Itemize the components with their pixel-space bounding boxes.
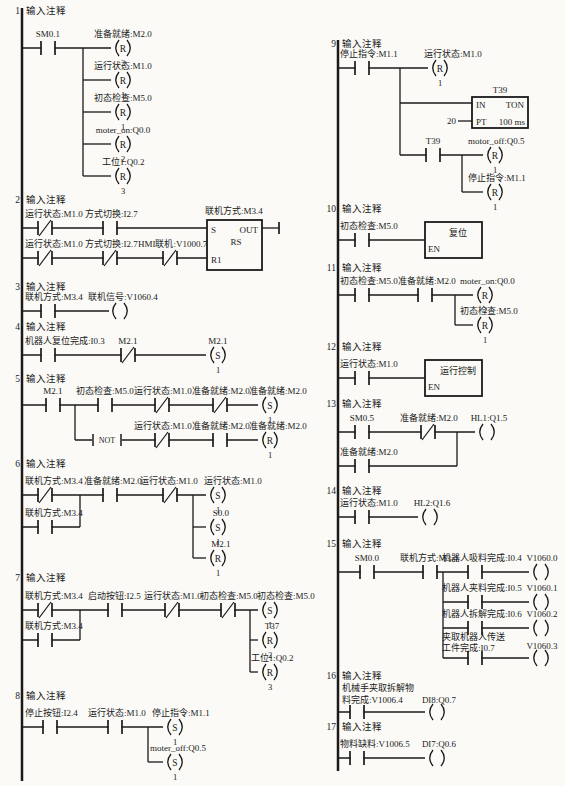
contact-label: 准备就绪:M2.0	[84, 475, 142, 486]
coil-type: R	[120, 44, 127, 54]
network-comment: 输入注释	[342, 485, 382, 496]
network-number: 11	[327, 263, 336, 273]
contact-label: 运行状态:M1.0	[134, 385, 192, 396]
coil-count: 1	[173, 772, 177, 782]
contact-label: 运行状态:M1.0	[25, 208, 83, 219]
network-number: 10	[327, 204, 337, 214]
symbol-gap	[427, 147, 440, 163]
ladder-diagram: SM0.1R2准备就绪:M2.0R1运行状态:M1.0R1初态检查:M5.0R2…	[0, 0, 565, 786]
coil-label: DI7:Q0.6	[422, 739, 457, 749]
coil: V1060.3	[526, 641, 558, 667]
coil-type: R	[267, 436, 274, 446]
symbol-gap	[469, 594, 482, 610]
network-comment: 输入注释	[342, 203, 382, 214]
no-contact: M2.1	[43, 386, 62, 413]
nc-contact: 运行状态:M1.0	[144, 590, 202, 618]
contact-label: M2.1	[118, 336, 137, 346]
coil-label: moter_on:Q0.0	[460, 276, 515, 286]
nc-contact: 运行状态:M1.0	[25, 238, 83, 266]
no-contact: T39	[426, 136, 441, 163]
no-contact: SM0.0	[355, 553, 380, 580]
contact-label: SM0.5	[350, 413, 375, 423]
coil-type: S	[215, 351, 220, 361]
coil-label: 准备就绪:M2.0	[249, 385, 307, 396]
contact-label: SM0.0	[355, 553, 380, 563]
no-contact: 停止按钮:I2.4	[25, 707, 78, 735]
coil-label: 停止指令:M1.1	[468, 172, 526, 183]
coil: R1运行状态:M1.0	[424, 48, 482, 88]
coil-label: 准备就绪:M2.0	[249, 420, 307, 431]
network-comment: 输入注释	[26, 690, 66, 701]
contact-label: 方式切换:I2.7	[85, 238, 138, 249]
network-13: SM0.5准备就绪:M2.0准备就绪:M2.0HL1:Q1.513输入注释	[327, 398, 508, 474]
symbol-gap	[214, 432, 227, 448]
symbol-gap	[351, 750, 364, 766]
no-contact: 初态检查:M5.0	[76, 385, 134, 413]
network-3: 联机方式:M3.4联机信号:V1060.43输入注释	[15, 281, 158, 320]
symbol-gap	[351, 704, 364, 720]
no-contact: 物料缺料:V1006.5	[340, 738, 410, 766]
coil-type: S	[215, 491, 220, 501]
symbol-gap	[356, 370, 369, 386]
contact-label: 停止按钮:I2.4	[25, 707, 78, 718]
network-number: 8	[15, 691, 20, 701]
no-contact: 运行状态:M1.0	[88, 707, 146, 735]
coil-count: 1	[438, 78, 442, 88]
symbol-gap	[356, 458, 369, 474]
network-number: 13	[327, 399, 337, 409]
symbol-gap	[104, 220, 117, 236]
coil: S1M2.1	[207, 336, 229, 375]
network-4: 机器人复位完成:I0.3M2.1S1M2.14输入注释	[15, 321, 229, 375]
network-16: DI8:Q0.7机械手夹取拆解物料完成:V1006.416输入注释	[327, 670, 457, 721]
network-number: 14	[327, 486, 337, 496]
coil-type: R	[492, 151, 499, 161]
coil: 联机信号:V1060.4	[88, 291, 158, 320]
function-block: 联机方式:M3.4SOUTRSR1	[205, 205, 263, 270]
contact-label: 初态检查:M5.0	[340, 220, 398, 231]
contact-label: 运行状态:M1.0	[140, 475, 198, 486]
network-number: 6	[15, 459, 20, 469]
no-contact: 联机方式:M3.4	[25, 507, 83, 535]
coil-type: R	[120, 76, 127, 86]
network-number: 3	[15, 282, 20, 292]
symbol-gap	[356, 60, 369, 76]
function-block: 运行控制EN	[425, 360, 482, 396]
network-comment: 输入注释	[26, 458, 66, 469]
contact-label: 准备就绪:M2.0	[400, 412, 458, 423]
network-number: 5	[15, 374, 20, 384]
coil-type: R	[120, 140, 127, 150]
coil-label: 联机信号:V1060.4	[88, 291, 158, 302]
network-7: 联机方式:M3.4联机方式:M3.4启动按钮:I2.5运行状态:M1.0初态检查…	[15, 572, 315, 692]
coil-type: R	[492, 188, 499, 198]
no-contact: SM0.1	[36, 29, 60, 56]
no-contact: 停止指令:M1.1	[340, 48, 398, 76]
coil-label: T37	[265, 621, 280, 631]
symbol-gap	[39, 519, 52, 535]
function-block: 复位EN	[425, 222, 482, 258]
function-block: T39INTONPT100 ms	[472, 85, 528, 128]
contact-label: 初态检查:M5.0	[200, 590, 258, 601]
network-2: 联机方式:M3.4SOUTRSR1运行状态:M1.0方式切换:I2.7运行状态:…	[15, 194, 279, 270]
contact-label: 联机方式:M3.4	[25, 590, 83, 601]
network-comment: 输入注释	[342, 38, 382, 49]
block-pin-label: IN	[476, 100, 486, 110]
nc-contact: 准备就绪:M2.0	[192, 385, 250, 413]
coil: DI7:Q0.6	[422, 739, 457, 767]
block-pin-label: EN	[428, 382, 440, 392]
coil-type: S	[267, 401, 272, 411]
contact-label: 初态检查:M5.0	[76, 385, 134, 396]
coil: V1060.2	[526, 609, 557, 637]
symbol-gap	[44, 719, 57, 735]
contact-label: 机器人吸料完成:I0.4	[442, 552, 522, 563]
coil: V1060.0	[526, 553, 558, 581]
network-6: 联机方式:M3.4联机方式:M3.4准备就绪:M2.0运行状态:M1.0S1运行…	[15, 458, 262, 578]
no-contact: 准备就绪:M2.0	[340, 446, 398, 474]
symbol-gap	[39, 632, 52, 648]
coil-label: motor_off:Q0.5	[468, 136, 525, 146]
annotation: 夹取机器人传送	[442, 631, 505, 642]
block-pin-label: PT	[476, 117, 487, 127]
network-comment: 输入注释	[26, 194, 66, 205]
coil-type: S	[172, 758, 177, 768]
coil-type: S	[215, 523, 220, 533]
nc-contact: HMI联机:V1000.7	[138, 238, 208, 266]
